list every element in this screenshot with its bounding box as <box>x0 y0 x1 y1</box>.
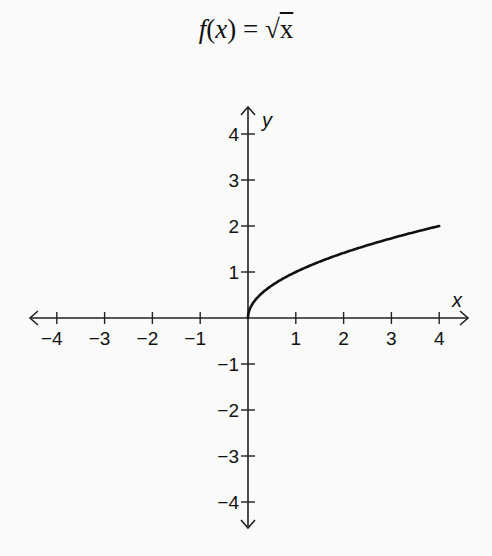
y-tick-label: 3 <box>228 170 239 191</box>
plot-area: xy−4−3−2−11234−4−3−2−11234 <box>0 0 492 556</box>
chart-title: f(x) = √x <box>0 14 492 45</box>
y-tick-label: −4 <box>217 492 239 513</box>
y-tick-label: −3 <box>217 446 239 467</box>
x-tick-label: −3 <box>89 328 111 349</box>
x-tick-label: −4 <box>41 328 63 349</box>
x-tick-label: 4 <box>434 328 445 349</box>
title-radicand: x <box>280 14 294 44</box>
title-var: x <box>215 14 227 44</box>
x-tick-label: 2 <box>338 328 349 349</box>
y-tick-label: 4 <box>228 124 239 145</box>
title-radical: √ <box>265 14 280 44</box>
x-tick-label: −2 <box>137 328 159 349</box>
y-tick-label: 1 <box>228 262 239 283</box>
title-open-paren: ( <box>206 14 215 44</box>
x-tick-label: −1 <box>184 328 206 349</box>
x-tick-label: 3 <box>386 328 397 349</box>
sqrt-function-chart: f(x) = √x xy−4−3−2−11234−4−3−2−11234 <box>0 0 492 556</box>
title-close-paren: ) <box>227 14 236 44</box>
y-axis-label: y <box>260 109 273 131</box>
y-tick-label: −2 <box>217 400 239 421</box>
x-axis-label: x <box>451 289 463 311</box>
y-tick-label: −1 <box>217 354 239 375</box>
sqrt-curve <box>248 226 439 318</box>
x-tick-label: 1 <box>291 328 302 349</box>
y-tick-label: 2 <box>228 216 239 237</box>
title-equals: = <box>236 14 265 44</box>
